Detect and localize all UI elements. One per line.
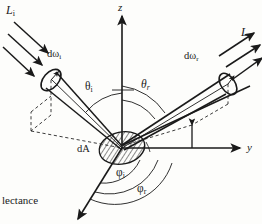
theta-incident-arc — [86, 93, 122, 112]
incident-radiance-rays — [3, 22, 48, 76]
label-reflected-radiance: Lr — [241, 26, 250, 40]
label-reflected-solid-angle: dωr — [184, 51, 199, 63]
label-theta-reflected: θr — [141, 79, 150, 92]
phi-reflected-arc — [90, 160, 172, 204]
caption-fragment: lectance — [2, 194, 38, 206]
label-phi-incident: φi — [116, 167, 125, 180]
label-phi-reflected: φr — [137, 183, 146, 196]
label-axis-z: z — [118, 2, 122, 13]
label-theta-incident: θi — [85, 81, 93, 94]
label-incident-solid-angle: dωi — [47, 49, 61, 61]
label-axis-y: y — [247, 142, 252, 153]
brdf-geometry-figure — [0, 0, 262, 224]
base-plane-arc — [146, 142, 150, 152]
label-surface-patch: dA — [77, 144, 90, 155]
label-incident-radiance: Li — [6, 4, 15, 18]
